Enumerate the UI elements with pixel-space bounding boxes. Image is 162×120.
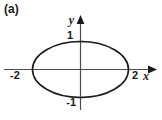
x-tick-label-negative-two: -2: [10, 69, 20, 81]
x-tick-label-two: 2: [132, 69, 138, 81]
x-axis-name: x: [142, 69, 149, 83]
ellipse-figure: (a) -2 2 1 -1 y x: [0, 0, 162, 120]
y-axis: [77, 15, 85, 110]
y-axis-arrow-icon: [77, 15, 85, 24]
x-axis-arrow-icon: [148, 66, 157, 74]
y-tick-label-negative-one: -1: [66, 96, 76, 108]
ellipse-plot: -2 2 1 -1 y x: [0, 0, 162, 120]
y-tick-label-one: 1: [67, 29, 73, 41]
y-axis-name: y: [67, 13, 75, 27]
